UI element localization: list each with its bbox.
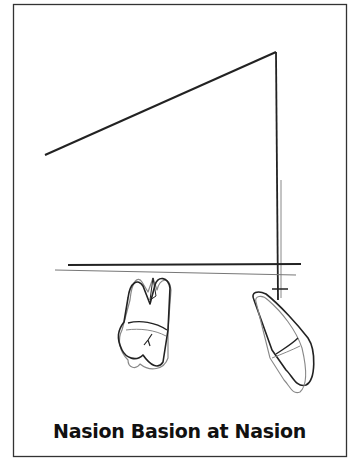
molar-tooth [118, 278, 171, 369]
nasion-basion-line [45, 52, 276, 155]
figure-frame [14, 5, 347, 457]
incisor-tooth [253, 292, 314, 393]
vertical-reference-line [276, 52, 278, 300]
cephalometric-diagram [0, 0, 356, 471]
figure-caption: Nasion Basion at Nasion [13, 420, 346, 442]
occlusal-plane-line-faint [55, 270, 296, 275]
occlusal-plane-line [68, 264, 301, 265]
